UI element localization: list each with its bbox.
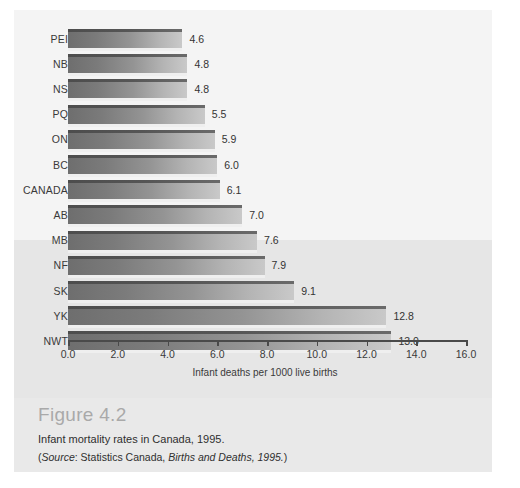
bar-category-label: NWT: [43, 335, 68, 347]
bar-row: BC6.0: [14, 152, 492, 177]
bar: [68, 155, 217, 174]
x-axis-tick: [267, 340, 269, 346]
bar-fill: [68, 29, 182, 48]
bar-category-label: SK: [54, 285, 68, 297]
bar-row: ON5.9: [14, 127, 492, 152]
figure-number: Figure 4.2: [38, 404, 127, 426]
bar: [68, 205, 242, 224]
bar-top-edge: [68, 231, 257, 234]
bar-row: AB7.0: [14, 202, 492, 227]
chart-plot-area: PEI4.6NB4.8NS4.8PQ5.5ON5.9BC6.0CANADA6.1…: [14, 10, 492, 398]
x-axis-tick-label: 0.0: [61, 348, 76, 360]
bar-fill: [68, 306, 386, 325]
x-axis-tick-label: 14.0: [406, 348, 426, 360]
bar-fill: [68, 105, 205, 124]
bar-top-edge: [68, 105, 205, 108]
bar-category-label: NS: [53, 83, 68, 95]
bar-fill: [68, 180, 220, 199]
bar-category-label: NB: [53, 58, 68, 70]
bar-category-label: AB: [54, 209, 68, 221]
x-axis-tick: [367, 340, 369, 346]
bar-top-edge: [68, 79, 187, 82]
bar-value-label: 7.0: [249, 209, 264, 221]
bar-category-label: PEI: [50, 33, 68, 45]
bar-value-label: 9.1: [301, 285, 316, 297]
bar-fill: [68, 79, 187, 98]
bar-value-label: 5.9: [222, 133, 237, 145]
bar: [68, 256, 265, 275]
x-axis-title: Infant deaths per 1000 live births: [14, 367, 492, 378]
bar-category-label: CANADA: [23, 184, 68, 196]
bar-value-label: 7.9: [272, 259, 287, 271]
bar-top-edge: [68, 205, 242, 208]
x-axis-tick: [416, 340, 418, 346]
bar: [68, 105, 205, 124]
bar-row: PQ5.5: [14, 102, 492, 127]
bar-fill: [68, 256, 265, 275]
bar-fill: [68, 130, 215, 149]
bar-value-label: 4.8: [194, 58, 209, 70]
bar-row: YK12.8: [14, 303, 492, 328]
bar: [68, 306, 386, 325]
bar: [68, 281, 294, 300]
bar: [68, 79, 187, 98]
source-colon: : Statistics Canada,: [75, 451, 168, 463]
x-axis-tick-label: 2.0: [110, 348, 125, 360]
x-axis-title-text: Infant deaths per 1000 live births: [192, 367, 337, 378]
bar-row: PEI4.6: [14, 26, 492, 51]
bar-category-label: ON: [52, 133, 68, 145]
bar-category-label: MB: [52, 234, 68, 246]
figure-caption: Figure 4.2 Infant mortality rates in Can…: [14, 398, 492, 472]
x-axis-tick-label: 6.0: [210, 348, 225, 360]
bar-value-label: 7.6: [264, 234, 279, 246]
x-axis-tick: [168, 340, 170, 346]
bar-value-label: 6.0: [224, 159, 239, 171]
figure-caption-text: Infant mortality rates in Canada, 1995.: [38, 433, 225, 445]
x-axis-tick: [317, 340, 319, 346]
bar-row: SK9.1: [14, 278, 492, 303]
bar-top-edge: [68, 281, 294, 284]
bar-category-label: BC: [53, 159, 68, 171]
x-axis-tick: [118, 340, 120, 346]
bar-row: CANADA6.1: [14, 177, 492, 202]
source-publication-title: Births and Deaths, 1995.: [168, 451, 284, 463]
bar-value-label: 12.8: [393, 310, 413, 322]
bar-row: NB4.8: [14, 51, 492, 76]
x-axis-tick: [68, 340, 70, 346]
bar-top-edge: [68, 54, 187, 57]
bar: [68, 29, 182, 48]
bar: [68, 54, 187, 73]
bar-value-label: 5.5: [212, 108, 227, 120]
bar-fill: [68, 205, 242, 224]
bar-category-label: YK: [54, 310, 68, 322]
bar-row: NS4.8: [14, 76, 492, 101]
x-axis-tick-label: 16.0: [456, 348, 476, 360]
bar-top-edge: [68, 155, 217, 158]
x-axis-tick: [217, 340, 219, 346]
bar-top-edge: [68, 256, 265, 259]
bar-row: MB7.6: [14, 228, 492, 253]
x-axis-tick-label: 4.0: [160, 348, 175, 360]
source-word: Source: [42, 451, 75, 463]
figure-source-line: (Source: Statistics Canada, Births and D…: [38, 451, 287, 463]
bar-top-edge: [68, 331, 391, 334]
source-close-paren: ): [284, 451, 288, 463]
bar: [68, 231, 257, 250]
bar: [68, 180, 220, 199]
bar-value-label: 4.8: [194, 83, 209, 95]
bar-fill: [68, 155, 217, 174]
x-axis-tick-label: 12.0: [356, 348, 376, 360]
bar-top-edge: [68, 180, 220, 183]
bar-row: NF7.9: [14, 253, 492, 278]
bar-fill: [68, 231, 257, 250]
bar: [68, 130, 215, 149]
x-axis-tick-label: 10.0: [307, 348, 327, 360]
bar-top-edge: [68, 306, 386, 309]
bar-value-label: 4.6: [189, 33, 204, 45]
bar-top-edge: [68, 29, 182, 32]
x-axis-tick: [466, 340, 468, 346]
bar-fill: [68, 281, 294, 300]
x-axis-tick-label: 8.0: [260, 348, 275, 360]
bar-fill: [68, 54, 187, 73]
bar-top-edge: [68, 130, 215, 133]
